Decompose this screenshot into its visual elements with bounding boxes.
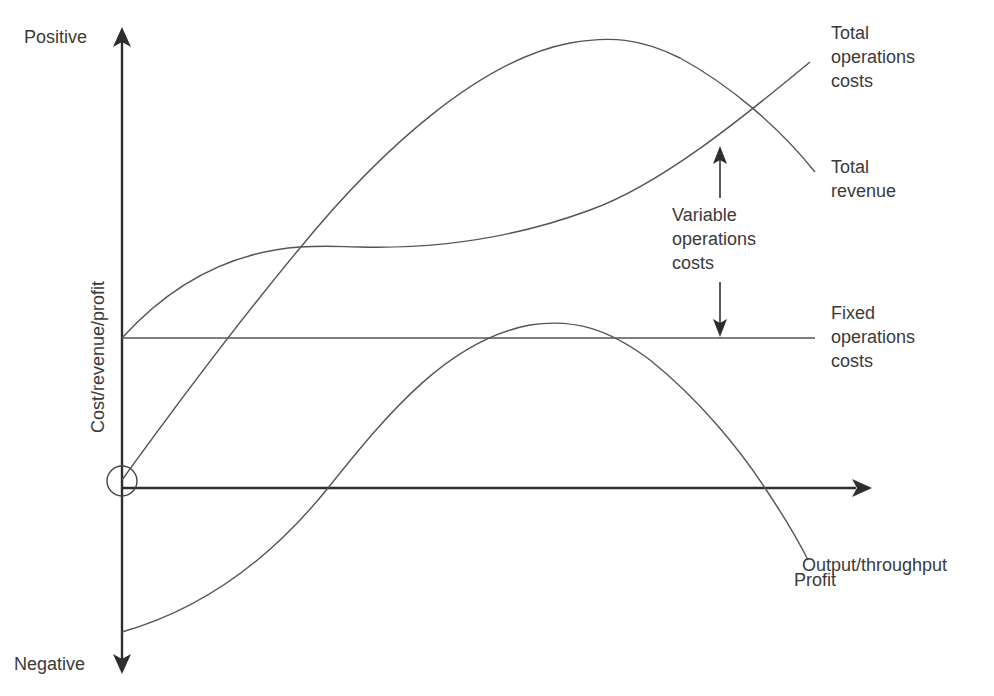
positive-label: Positive: [24, 25, 87, 49]
total-costs-curve: [122, 62, 810, 338]
x-axis: [122, 479, 872, 497]
negative-label: Negative: [14, 652, 85, 676]
total-costs-label: Total operations costs: [831, 21, 915, 93]
y-axis-label: Cost/revenue/profit: [88, 281, 109, 433]
y-axis: [113, 27, 131, 674]
variable-costs-label: Variable operations costs: [672, 203, 756, 275]
fixed-costs-label: Fixed operations costs: [831, 301, 915, 373]
profit-curve: [122, 323, 808, 632]
total-revenue-label: Total revenue: [831, 155, 896, 203]
cost-revenue-profit-diagram: Positive Negative Cost/revenue/profit Ou…: [0, 0, 994, 696]
profit-label: Profit: [794, 568, 836, 592]
